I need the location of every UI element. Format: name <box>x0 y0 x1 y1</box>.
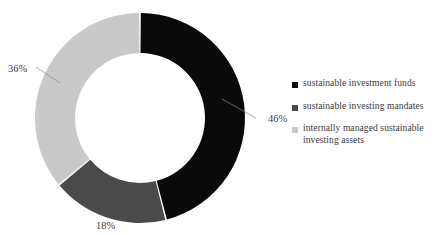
donut-chart-figure: 46% 18% 36% sustainable investment funds… <box>0 0 435 235</box>
legend-item-label: sustainable investing mandates <box>303 101 424 113</box>
percent-label-36: 36% <box>8 63 28 74</box>
legend-item-sustainable-investment-funds[interactable]: sustainable investment funds <box>292 78 432 90</box>
percent-label-46: 46% <box>268 113 288 124</box>
square-marker-icon <box>292 127 298 133</box>
donut-slice-internally-managed-sustainable-investing-assets[interactable] <box>35 13 139 184</box>
square-marker-icon <box>292 105 298 111</box>
legend-item-internally-managed-sustainable-investing-assets[interactable]: internally managed sustainable investing… <box>292 123 432 146</box>
chart-legend: sustainable investment funds sustainable… <box>292 78 432 157</box>
legend-item-sustainable-investing-mandates[interactable]: sustainable investing mandates <box>292 101 432 113</box>
donut-slices <box>35 13 245 223</box>
square-marker-icon <box>292 82 298 88</box>
percent-label-18: 18% <box>96 220 116 231</box>
legend-item-label: internally managed sustainable investing… <box>303 123 432 146</box>
legend-item-label: sustainable investment funds <box>303 78 416 90</box>
